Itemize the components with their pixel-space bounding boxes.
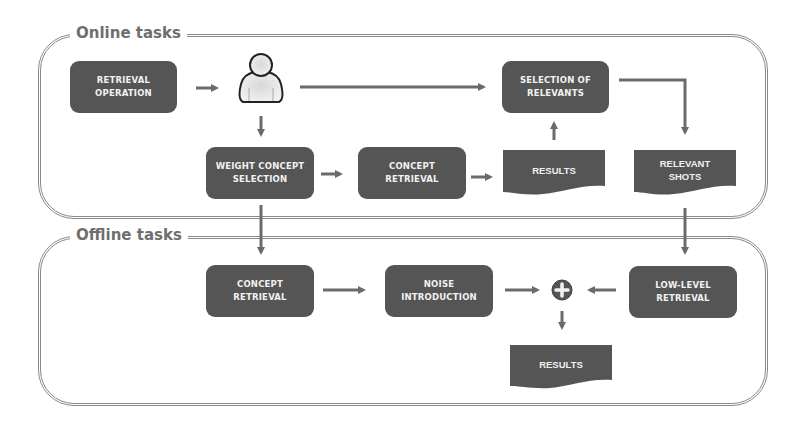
concept-retrieval-online-node: CONCEPT RETRIEVAL [358, 147, 466, 199]
noise-introduction-node: NOISE INTRODUCTION [385, 265, 493, 317]
results-offline-document: RESULTS [510, 345, 612, 389]
relevant-shots-document: RELEVANT SHOTS [634, 150, 736, 196]
concept-retrieval-offline-node: CONCEPT RETRIEVAL [206, 265, 314, 317]
results-online-document: RESULTS [503, 150, 605, 196]
weight-concept-selection-node: WEIGHT CONCEPT SELECTION [206, 147, 314, 199]
user-icon [237, 52, 285, 108]
retrieval-operation-node: RETRIEVAL OPERATION [70, 61, 177, 113]
arrow-selection-to-shots [619, 80, 685, 132]
selection-of-relevants-node: SELECTION OF RELEVANTS [502, 61, 609, 113]
low-level-retrieval-node: LOW-LEVEL RETRIEVAL [629, 266, 737, 318]
plus-icon [551, 279, 573, 301]
